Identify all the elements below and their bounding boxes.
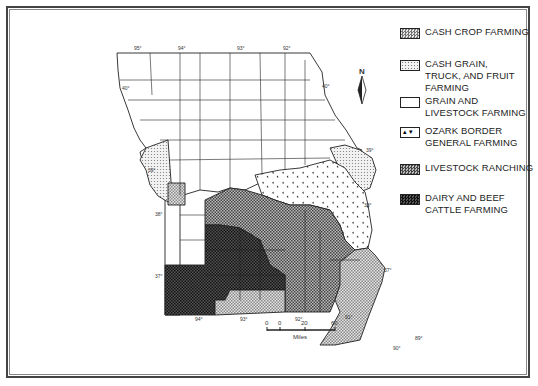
lat-label-right-40: 40°	[322, 83, 330, 89]
grain-livestock-swatch-icon	[400, 97, 420, 108]
long-label-93: 93°	[237, 45, 245, 51]
legend-label: CASH CROP FARMING	[425, 26, 529, 38]
long-label-bottom-93: 93°	[240, 316, 248, 322]
legend-label: LIVESTOCK RANCHING	[425, 162, 533, 174]
legend-label: CASH GRAIN, TRUCK, AND FRUIT FARMING	[425, 58, 525, 94]
cash-grain-swatch-icon	[400, 60, 420, 71]
long-label-bottom-94: 94°	[195, 316, 203, 322]
legend-item-ozark: ▴ ▾ OZARK BORDER GENERAL FARMING	[400, 125, 525, 149]
lat-label-37: 37°	[155, 273, 163, 279]
legend-label: DAIRY AND BEEF CATTLE FARMING	[425, 192, 520, 216]
svg-text:Miles: Miles	[293, 334, 307, 340]
legend-item-grain-livestock: GRAIN AND LIVESTOCK FARMING	[400, 95, 530, 119]
legend-item-cash-crop: CASH CROP FARMING	[400, 26, 529, 39]
long-label-92: 92°	[283, 45, 291, 51]
legend-label: GRAIN AND LIVESTOCK FARMING	[425, 95, 530, 119]
long-label-94: 94°	[178, 45, 186, 51]
long-label-bottom-91: 91°	[345, 314, 353, 320]
region-cash-crop-west	[168, 183, 185, 205]
dairy-swatch-icon	[400, 194, 420, 205]
lat-label-40: 40°	[122, 85, 130, 91]
svg-text:60: 60	[331, 320, 338, 326]
svg-text:0: 0	[278, 320, 282, 326]
legend-item-ranching: LIVESTOCK RANCHING	[400, 162, 533, 175]
ranching-swatch-icon	[400, 164, 420, 175]
cash-crop-swatch-icon	[400, 28, 420, 39]
legend-label: OZARK BORDER GENERAL FARMING	[425, 125, 525, 149]
ozark-swatch-icon: ▴ ▾	[400, 127, 420, 138]
lat-label-39: 39°	[148, 167, 156, 173]
legend-item-cash-grain: CASH GRAIN, TRUCK, AND FRUIT FARMING	[400, 58, 525, 94]
lat-label-right-37: 37°	[384, 267, 392, 273]
lat-label-right-38: 38°	[364, 202, 372, 208]
lat-label-right-39: 39°	[366, 147, 374, 153]
long-label-95: 95°	[134, 45, 142, 51]
long-label-bottom-90: 90°	[393, 345, 401, 351]
long-label-bottom-89: 89°	[415, 335, 423, 341]
north-arrow-icon: N	[358, 67, 366, 104]
svg-text:0: 0	[265, 320, 269, 326]
legend-item-dairy: DAIRY AND BEEF CATTLE FARMING	[400, 192, 520, 216]
svg-text:20: 20	[301, 320, 308, 326]
lat-label-38: 38°	[155, 211, 163, 217]
